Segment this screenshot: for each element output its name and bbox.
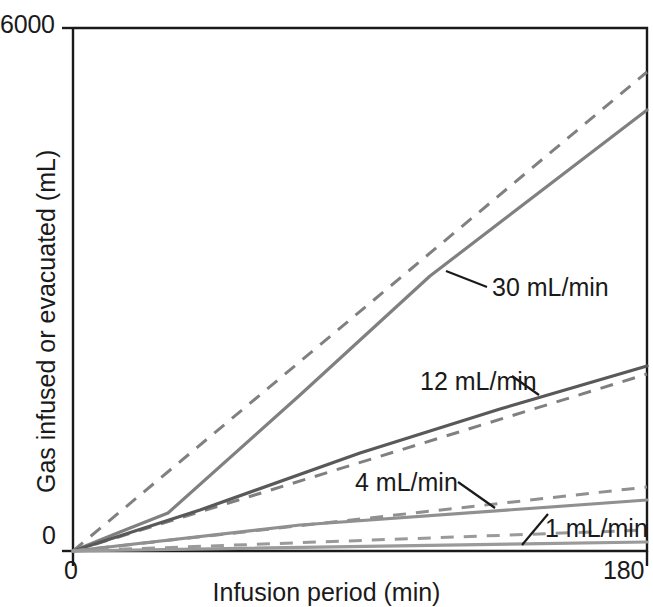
series-line-1-evacuated — [73, 542, 647, 551]
y-axis-tick-label-top: 6000 — [0, 10, 55, 39]
leader-line-30 — [446, 271, 487, 287]
x-axis-title: Infusion period (min) — [0, 578, 653, 607]
y-axis-tick-label-bottom: 0 — [42, 521, 56, 550]
series-annotation-1: 1 mL/min — [545, 514, 648, 543]
x-axis-ticks — [73, 551, 647, 566]
y-axis-ticks — [62, 28, 73, 551]
series-annotation-4: 4 mL/min — [355, 468, 458, 497]
leader-line-4 — [458, 482, 495, 508]
series-annotation-30: 30 mL/min — [492, 273, 609, 302]
series-annotation-12: 12 mL/min — [420, 367, 537, 396]
y-axis-title: Gas infused or evacuated (mL) — [32, 150, 61, 493]
